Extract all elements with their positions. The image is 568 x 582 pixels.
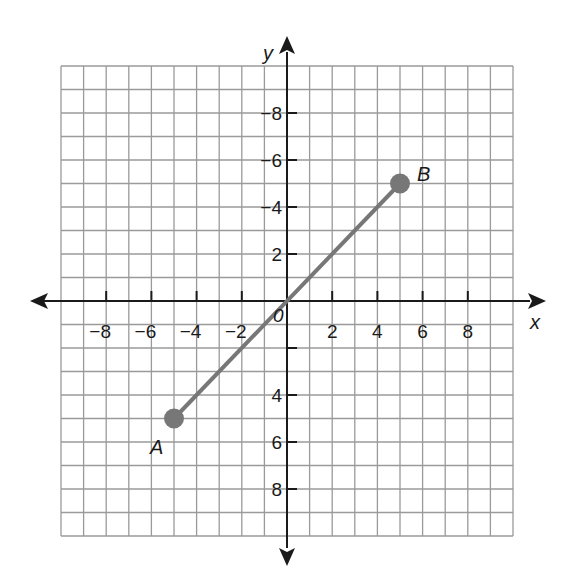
y-axis-label: y xyxy=(261,42,274,64)
x-tick-label: −2 xyxy=(225,321,247,342)
arrow-up-icon xyxy=(279,36,295,54)
y-tick-label: 4 xyxy=(271,385,282,406)
y-tick-label: −6 xyxy=(260,150,282,171)
arrow-down-icon xyxy=(279,548,295,566)
point-b xyxy=(390,174,410,194)
x-tick-label: 8 xyxy=(463,321,474,342)
x-tick-label: −8 xyxy=(89,321,111,342)
x-tick-label: 2 xyxy=(327,321,338,342)
x-tick-label: −4 xyxy=(180,321,202,342)
arrow-right-icon xyxy=(528,293,546,309)
point-a xyxy=(164,409,184,429)
y-tick-label: 2 xyxy=(271,244,282,265)
origin-label: 0 xyxy=(273,305,284,326)
x-tick-label: 6 xyxy=(417,321,428,342)
y-tick-label: −8 xyxy=(260,103,282,124)
x-tick-label: −6 xyxy=(135,321,157,342)
point-label-b: B xyxy=(417,163,430,185)
point-label-a: A xyxy=(149,436,163,458)
x-axis-label: x xyxy=(529,311,541,333)
x-tick-label: 4 xyxy=(372,321,383,342)
y-tick-label: 6 xyxy=(271,432,282,453)
coordinate-plane: −8−6−4−224688642−4−6−8 AB x y 0 xyxy=(0,0,568,582)
y-tick-label: 8 xyxy=(271,479,282,500)
y-tick-label: −4 xyxy=(260,197,282,218)
